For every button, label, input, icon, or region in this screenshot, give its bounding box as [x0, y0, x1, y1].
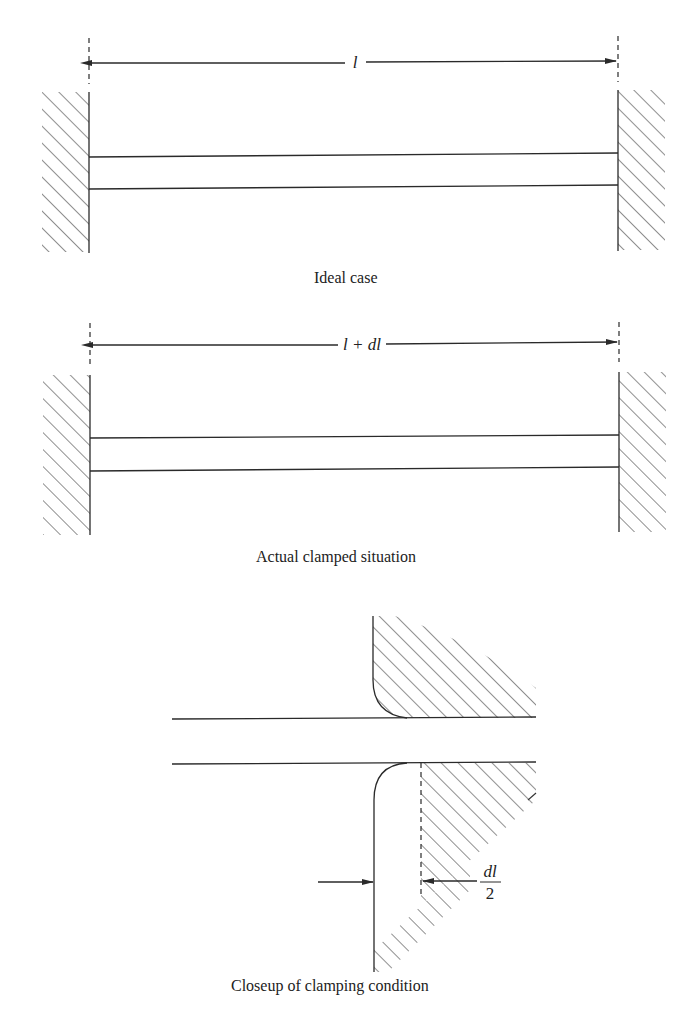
ideal-case-caption: Ideal case — [314, 269, 378, 287]
lower-clamp-hatch-upper — [421, 763, 536, 905]
upper-clamp-hatch — [373, 616, 536, 718]
closeup-caption: Closeup of clamping condition — [231, 977, 429, 995]
beam-bottom-edge — [89, 185, 618, 189]
actual-clamped-caption: Actual clamped situation — [256, 548, 416, 566]
beam-top-edge — [90, 435, 619, 438]
left-wall-hatch — [43, 375, 90, 535]
left-wall-hatch — [42, 92, 89, 252]
beam-bottom-edge — [90, 467, 619, 471]
closeup-diagram: dl 2 — [172, 616, 536, 972]
beam-top-edge — [89, 153, 618, 157]
dimension-arrow-right — [366, 61, 616, 62]
dimension-arrow-right — [386, 342, 617, 344]
dl-denominator: 2 — [486, 884, 495, 903]
right-wall-hatch — [618, 90, 665, 250]
length-label: l — [353, 53, 358, 72]
clamped-beam-figure: l l + dl — [0, 0, 694, 1010]
dl-numerator: dl — [483, 862, 497, 881]
length-plus-dl-label: l + dl — [343, 335, 381, 354]
right-wall-hatch — [619, 372, 666, 532]
ideal-case-diagram: l — [42, 36, 665, 253]
actual-clamped-diagram: l + dl — [43, 322, 666, 535]
